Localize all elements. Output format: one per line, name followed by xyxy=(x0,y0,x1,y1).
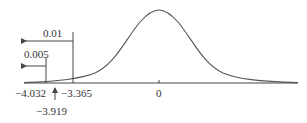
t-distribution-figure: 0.01 0.005 −4.032 −3.365 0 −3.919 xyxy=(0,0,307,123)
tick-label-0: 0 xyxy=(156,87,162,99)
density-curve xyxy=(24,10,298,83)
tick-label-3919: −3.919 xyxy=(36,105,67,117)
label-area-0.01: 0.01 xyxy=(43,27,62,39)
tick-label-3365: −3.365 xyxy=(61,87,92,99)
chart-svg: 0.01 0.005 −4.032 −3.365 0 −3.919 xyxy=(0,0,307,123)
label-area-0.005: 0.005 xyxy=(24,48,49,60)
tick-label-4032: −4.032 xyxy=(15,87,46,99)
